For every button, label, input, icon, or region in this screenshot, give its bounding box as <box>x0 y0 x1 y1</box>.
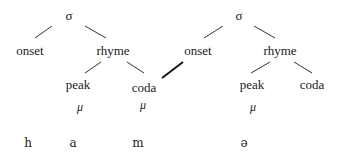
coda-node-2: coda <box>300 78 325 91</box>
segment-schwa: ə <box>240 137 247 149</box>
segment-h: h <box>24 137 32 149</box>
branch-rhyme1-coda <box>127 62 144 73</box>
syllable-diagram: σ onset rhyme peak coda μ μ σ onset rhym… <box>0 0 337 160</box>
peak-node-1: peak <box>66 78 91 91</box>
mora-peak-1: μ <box>77 101 83 113</box>
segment-a: a <box>69 137 76 149</box>
mora-coda-1: μ <box>140 99 146 111</box>
rhyme-node-2: rhyme <box>263 44 296 57</box>
branch-rhyme2-coda <box>294 62 312 73</box>
ambisyllabic-link <box>162 62 183 78</box>
coda-node-1: coda <box>132 81 157 94</box>
sigma-node-2: σ <box>235 9 242 22</box>
mora-peak-2: μ <box>250 101 256 113</box>
onset-node-1: onset <box>16 44 43 57</box>
sigma-node-1: σ <box>65 9 72 22</box>
segment-m: m <box>132 137 143 149</box>
peak-node-2: peak <box>240 78 265 91</box>
branch-rhyme2-peak <box>251 62 270 73</box>
tree-branches <box>0 0 337 160</box>
onset-node-2: onset <box>184 44 211 57</box>
branch-sigma2-onset <box>204 26 223 38</box>
rhyme-node-1: rhyme <box>96 44 129 57</box>
branch-sigma2-rhyme <box>254 26 275 38</box>
branch-sigma1-rhyme <box>85 26 106 38</box>
branch-rhyme1-peak <box>85 62 101 73</box>
branch-sigma1-onset <box>35 26 52 38</box>
